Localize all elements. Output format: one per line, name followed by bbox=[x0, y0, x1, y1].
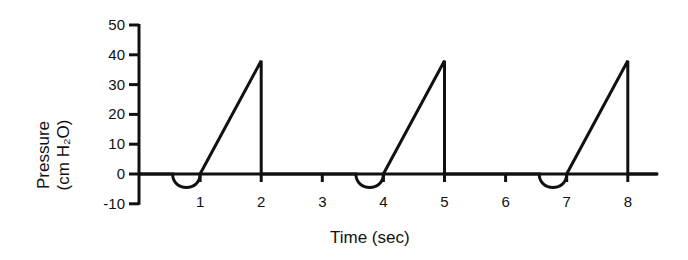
y-tick-label: 30 bbox=[108, 76, 125, 93]
x-tick-label: 1 bbox=[196, 193, 204, 210]
x-tick-label: 3 bbox=[318, 193, 326, 210]
x-tick-label: 6 bbox=[501, 193, 509, 210]
x-tick-label: 5 bbox=[440, 193, 448, 210]
y-tick-label: 0 bbox=[117, 165, 125, 182]
tick-labels: -100102030405012345678 bbox=[103, 16, 632, 212]
y-axis-title: Pressure (cm H₂O) bbox=[28, 80, 98, 200]
pressure-waveform bbox=[139, 61, 658, 188]
x-tick-label: 7 bbox=[563, 193, 571, 210]
y-tick-label: 50 bbox=[108, 16, 125, 33]
y-tick-label: 10 bbox=[108, 135, 125, 152]
y-tick-label: -10 bbox=[103, 195, 125, 212]
y-tick-label: 20 bbox=[108, 105, 125, 122]
x-tick-label: 4 bbox=[379, 193, 387, 210]
y-axis-title-line1: Pressure bbox=[34, 80, 54, 230]
y-axis-title-line2: (cm H₂O) bbox=[54, 80, 74, 230]
x-tick-label: 2 bbox=[257, 193, 265, 210]
x-tick-label: 8 bbox=[624, 193, 632, 210]
pressure-time-chart: -100102030405012345678 bbox=[0, 0, 688, 260]
x-axis-title: Time (sec) bbox=[330, 228, 410, 248]
axes bbox=[129, 24, 657, 205]
y-tick-label: 40 bbox=[108, 46, 125, 63]
